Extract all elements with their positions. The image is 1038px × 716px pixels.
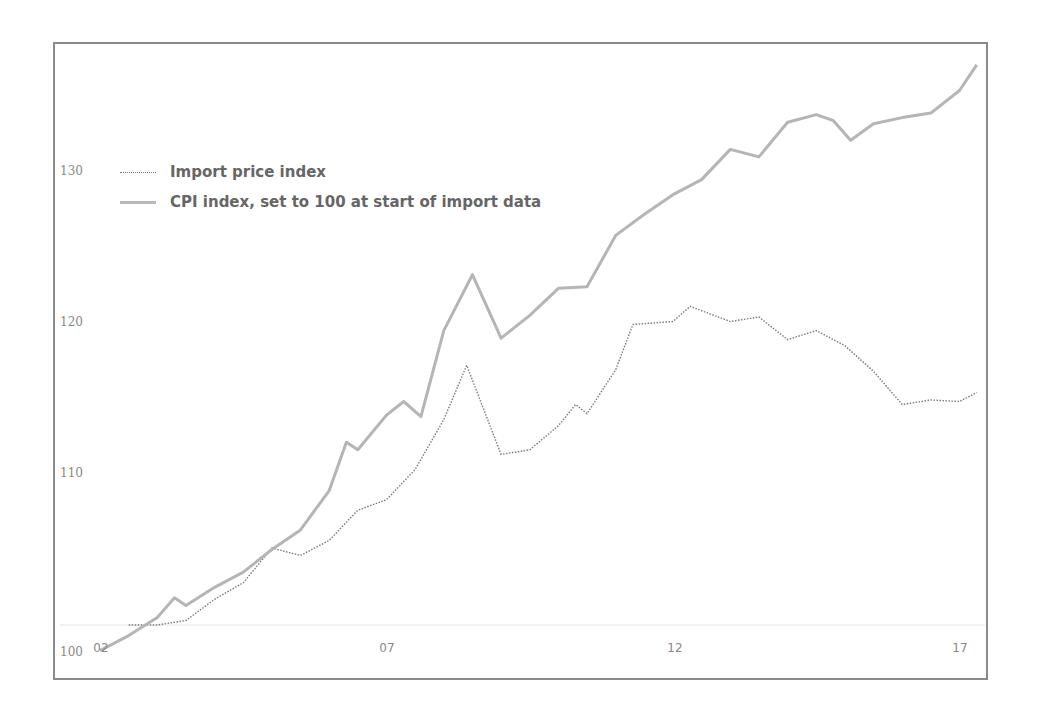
- legend-item-import: Import price index: [120, 157, 541, 187]
- y-tick-label: 100: [60, 645, 83, 659]
- legend-label: Import price index: [170, 163, 326, 181]
- dotted-line-swatch-icon: [120, 172, 156, 173]
- solid-line-swatch-icon: [120, 201, 156, 204]
- x-tick-label: 12: [667, 641, 682, 655]
- y-tick-label: 120: [60, 315, 83, 329]
- x-tick-label: 17: [952, 641, 967, 655]
- legend-item-cpi: CPI index, set to 100 at start of import…: [120, 187, 541, 217]
- x-tick-label: 02: [93, 641, 108, 655]
- legend-label: CPI index, set to 100 at start of import…: [170, 193, 541, 211]
- cpi-line: [100, 65, 977, 651]
- y-tick-label: 110: [60, 466, 83, 480]
- x-tick-label: 07: [379, 641, 394, 655]
- legend: Import price index CPI index, set to 100…: [120, 157, 541, 217]
- y-tick-label: 130: [60, 164, 83, 178]
- plot-area: [0, 0, 1038, 716]
- import-price-line: [129, 306, 977, 625]
